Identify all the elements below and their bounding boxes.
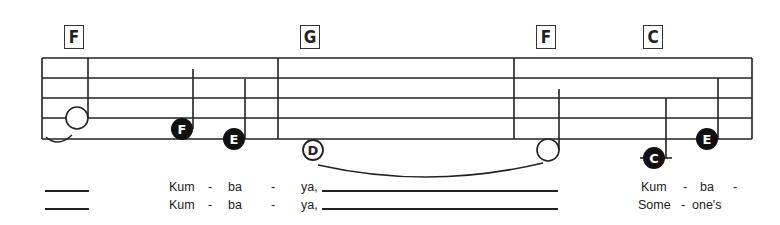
lyric-v1-hyphen-1: -: [208, 180, 212, 194]
svg-text:F: F: [178, 122, 187, 137]
lyric-v1-hyphen-4: -: [733, 180, 737, 194]
lyric-v2-some: Some: [638, 198, 671, 212]
lyric-v2-ones: one's: [692, 198, 722, 212]
lyric-v1-hyphen-2: -: [271, 180, 275, 194]
lyric-v1-hyphen-3: -: [683, 180, 687, 194]
lyric-v1-kum-2: Kum: [641, 180, 667, 194]
lyric-v1-ya: ya,: [301, 180, 318, 194]
quarter-note-f: F: [171, 69, 193, 140]
lyric-v2-ba: ba: [228, 198, 242, 212]
whole-note-d: D: [303, 140, 323, 160]
svg-text:C: C: [649, 151, 659, 166]
lyric-blank-line-2: [45, 208, 89, 210]
svg-text:E: E: [703, 132, 712, 147]
lyric-v2-ya: ya,: [301, 198, 318, 212]
lyric-v2-hyphen-3: -: [681, 198, 685, 212]
lyric-extender-1: [322, 190, 558, 192]
lyric-v2-hyphen-2: -: [271, 198, 275, 212]
quarter-note-c: C: [640, 98, 672, 169]
tie: [318, 163, 543, 177]
lyric-v2-hyphen-1: -: [208, 198, 212, 212]
lyric-v1-ba-2: ba: [700, 180, 714, 194]
lyric-extender-2: [322, 208, 558, 210]
lyric-v1-kum: Kum: [169, 180, 195, 194]
svg-text:D: D: [308, 143, 319, 158]
quarter-note-e: E: [223, 79, 245, 150]
quarter-note-e-2: E: [696, 78, 718, 150]
lyric-v1-ba: ba: [228, 180, 242, 194]
svg-text:E: E: [230, 132, 239, 147]
half-note-a: [46, 58, 88, 142]
half-note-d-tied: [537, 89, 559, 161]
lyric-v2-kum: Kum: [169, 198, 195, 212]
lyric-blank-line-1: [45, 190, 89, 192]
